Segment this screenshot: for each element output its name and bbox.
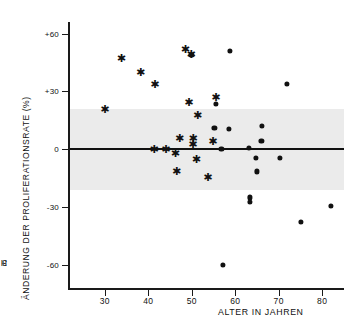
data-point-star (175, 133, 184, 142)
y-axis-title-line2: ÄNDERUNG DER PROLIFERATIONSRATE (%) (21, 96, 31, 300)
data-point-star (192, 154, 201, 163)
x-tick-label: 30 (100, 296, 110, 306)
data-point-star (161, 145, 170, 154)
data-point-star (203, 173, 212, 182)
data-point-star (184, 97, 193, 106)
y-tick-label: +30 (45, 87, 59, 96)
data-point-dot (214, 101, 219, 106)
y-tick-mark (62, 149, 68, 150)
x-tick-label: 60 (230, 296, 240, 306)
data-point-star (189, 133, 198, 142)
x-tick-label: 80 (317, 296, 327, 306)
data-point-star (149, 145, 158, 154)
data-point-star (100, 104, 109, 113)
plot-area (70, 22, 344, 288)
x-tick-label: 40 (143, 296, 153, 306)
data-point-star (211, 93, 220, 102)
data-point-star (117, 53, 126, 62)
data-point-dot (298, 219, 303, 224)
data-point-star (150, 79, 159, 88)
data-point-star (136, 68, 145, 77)
data-point-star (193, 110, 202, 119)
data-point-star (172, 167, 181, 176)
x-axis-line (68, 288, 344, 290)
y-tick-label: +60 (45, 29, 59, 38)
x-axis-title: ALTER IN JAHREN (218, 307, 304, 317)
regression-line (70, 148, 344, 150)
data-point-star (171, 149, 180, 158)
data-point-dot (220, 262, 225, 267)
x-tick-label: 70 (274, 296, 284, 306)
x-tick-label: 50 (187, 296, 197, 306)
scatter-plot-figure: +60+300-30-60 304050607080 3H - UdR - EI… (0, 0, 348, 325)
y-axis-title: 3H - UdR - EINBAU ÄNDERUNG DER PROLIFERA… (0, 0, 38, 300)
y-tick-mark (62, 91, 68, 92)
y-tick-mark (62, 34, 68, 35)
y-tick-label: 0 (54, 145, 59, 154)
data-point-star (208, 136, 217, 145)
data-point-dot (284, 81, 289, 86)
y-tick-mark (62, 265, 68, 266)
y-axis-title-line1: H - UdR - EINBAU (0, 258, 7, 268)
y-tick-label: -60 (47, 260, 59, 269)
data-point-dot (247, 200, 252, 205)
y-tick-label: -30 (47, 203, 59, 212)
data-point-dot (227, 48, 232, 53)
data-point-dot (328, 203, 333, 208)
y-tick-mark (62, 207, 68, 208)
